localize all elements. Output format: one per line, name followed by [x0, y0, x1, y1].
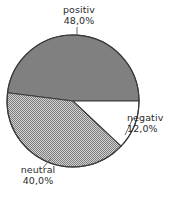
- slice-label-negativ-percent: 12,0%: [127, 124, 177, 135]
- slice-label-neutral-percent: 40,0%: [4, 176, 72, 187]
- pie-slice-positiv: [8, 35, 139, 101]
- pie-chart: positiv 48,0% negativ 12,0% neutral 40,0…: [0, 0, 177, 200]
- slice-label-negativ: negativ 12,0%: [127, 113, 177, 134]
- slice-label-positiv: positiv 48,0%: [44, 5, 114, 26]
- slice-label-neutral-name: neutral: [4, 165, 72, 176]
- slice-label-neutral: neutral 40,0%: [4, 165, 72, 186]
- slice-label-positiv-name: positiv: [44, 5, 114, 16]
- slice-label-positiv-percent: 48,0%: [44, 16, 114, 27]
- slice-label-negativ-name: negativ: [127, 113, 177, 124]
